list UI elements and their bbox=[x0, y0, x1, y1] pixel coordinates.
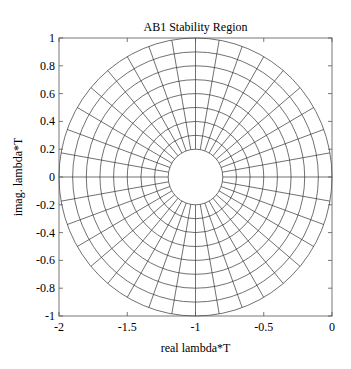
x-axis-ticks: -2-1.5-1-0.50 bbox=[54, 38, 335, 334]
y-tick-label: 0 bbox=[49, 170, 55, 184]
radial-spoke bbox=[209, 57, 264, 153]
radial-spoke bbox=[219, 191, 314, 247]
x-axis-label: real lambda*T bbox=[161, 341, 231, 355]
y-tick-label: 0.4 bbox=[40, 114, 55, 128]
radial-spoke bbox=[67, 129, 170, 167]
x-tick-label: -1.5 bbox=[118, 320, 137, 334]
radial-spoke bbox=[222, 153, 330, 172]
radial-spoke bbox=[219, 108, 314, 164]
chart: AB1 Stability Region -2-1.5-1-0.50 10.80… bbox=[0, 0, 351, 369]
y-tick-label: -0.6 bbox=[36, 253, 55, 267]
x-tick-label: -1 bbox=[191, 320, 201, 334]
y-tick-label: -1 bbox=[45, 309, 55, 323]
ring-circle bbox=[168, 149, 223, 205]
x-tick-label: -0.5 bbox=[254, 320, 273, 334]
radial-spoke bbox=[205, 46, 242, 150]
y-tick-label: 1 bbox=[49, 31, 55, 45]
radial-spoke bbox=[149, 46, 186, 150]
y-tick-label: 0.6 bbox=[40, 87, 55, 101]
y-tick-label: -0.2 bbox=[36, 198, 55, 212]
chart-title: AB1 Stability Region bbox=[143, 20, 247, 34]
y-tick-label: 0.2 bbox=[40, 142, 55, 156]
radial-spoke bbox=[222, 182, 330, 201]
radial-spoke bbox=[149, 203, 186, 307]
radial-spoke bbox=[172, 40, 191, 150]
radial-spoke bbox=[221, 187, 324, 225]
radial-spoke bbox=[200, 204, 219, 314]
radial-spoke bbox=[77, 191, 172, 247]
radial-spoke bbox=[127, 57, 182, 153]
y-tick-label: 0.8 bbox=[40, 59, 55, 73]
y-axis-label: imag. lambda*T bbox=[11, 137, 25, 216]
radial-spoke bbox=[61, 153, 169, 172]
radial-spoke bbox=[61, 182, 169, 201]
radial-spoke bbox=[221, 129, 324, 167]
x-tick-label: -2 bbox=[54, 320, 64, 334]
y-tick-label: -0.4 bbox=[36, 226, 55, 240]
x-tick-label: 0 bbox=[329, 320, 335, 334]
radial-spoke bbox=[172, 204, 191, 314]
y-tick-label: -0.8 bbox=[36, 281, 55, 295]
radial-spoke bbox=[67, 187, 170, 225]
radial-spoke bbox=[127, 201, 182, 297]
radial-spoke bbox=[209, 201, 264, 297]
radial-spoke bbox=[200, 40, 219, 150]
stability-region-plot: AB1 Stability Region -2-1.5-1-0.50 10.80… bbox=[0, 0, 351, 369]
polar-mesh bbox=[59, 38, 332, 316]
radial-spoke bbox=[77, 108, 172, 164]
radial-spoke bbox=[205, 203, 242, 307]
